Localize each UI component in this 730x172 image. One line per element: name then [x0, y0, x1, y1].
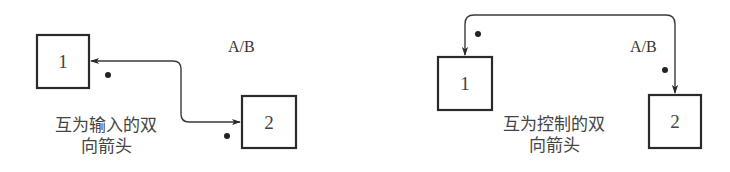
node-1-box: 1 — [37, 35, 89, 88]
dot-marker — [105, 72, 111, 78]
diagram-mutual-input: 1 2 A/B 互为输入的双 向箭头 — [37, 35, 296, 156]
caption-line-1: 互为控制的双 — [503, 114, 605, 134]
node-2-box: 2 — [242, 96, 296, 148]
bidirectional-input-arrow — [91, 61, 240, 122]
caption-line-2: 向箭头 — [529, 135, 580, 155]
dot-marker — [224, 133, 230, 139]
diagram-canvas: 1 2 A/B 互为输入的双 向箭头 1 2 A/B 互为控制的双 向箭头 — [0, 0, 730, 172]
caption-line-1: 互为输入的双 — [55, 115, 157, 135]
node-2-label: 2 — [264, 112, 274, 133]
dot-marker — [475, 31, 481, 37]
node-1-label: 1 — [460, 73, 470, 94]
node-2-box: 2 — [649, 95, 701, 148]
node-2-label: 2 — [670, 111, 680, 132]
ab-label: A/B — [630, 38, 657, 55]
ab-label: A/B — [228, 38, 255, 55]
dot-marker — [662, 67, 668, 73]
diagram-mutual-control: 1 2 A/B 互为控制的双 向箭头 — [438, 15, 701, 155]
caption-line-2: 向箭头 — [81, 136, 132, 156]
node-1-label: 1 — [58, 51, 68, 72]
node-1-box: 1 — [438, 57, 492, 110]
